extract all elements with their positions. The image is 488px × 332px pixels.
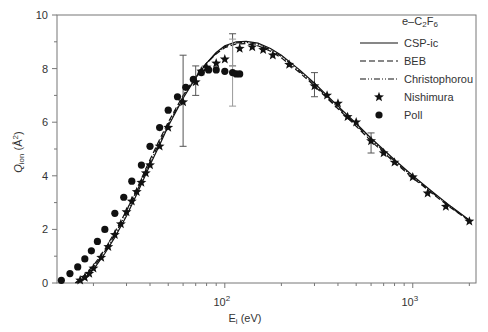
poll-circle-marker [198, 69, 205, 76]
nishimura-star-marker [441, 201, 451, 210]
poll-circle-marker [128, 178, 135, 185]
y-tick-label: 4 [42, 170, 48, 182]
legend-label: CSP-ic [404, 37, 439, 49]
y-tick-label: 10 [36, 9, 48, 21]
poll-circle-marker [101, 226, 108, 233]
poll-circle-marker [111, 210, 118, 217]
x-axis-ticks: 102103 [93, 283, 469, 308]
nishimura-star-marker [235, 43, 245, 52]
legend-items: CSP-icBEBChristophorouNishimuraPoll [360, 37, 473, 121]
poll-circle-marker [156, 124, 163, 131]
poll-circle-marker [94, 238, 101, 245]
poll-circle-marker [74, 263, 81, 270]
y-tick-label: 2 [42, 223, 48, 235]
legend-label: Nishimura [404, 91, 454, 103]
poll-circle-marker [213, 66, 220, 73]
poll-circle-marker [66, 270, 73, 277]
poll-circle-marker [182, 84, 189, 91]
legend-title: e–C2F6 [402, 15, 438, 29]
poll-circle-marker [165, 107, 172, 114]
poll-circle-marker [81, 255, 88, 262]
poll-circle-marker [58, 277, 65, 284]
error-bars [180, 34, 375, 153]
legend-label: BEB [404, 55, 426, 67]
y-tick-label: 0 [42, 277, 48, 289]
poll-circle-marker [236, 70, 243, 77]
poll-circle-marker [205, 66, 212, 73]
y-axis-ticks: 0246810 [36, 9, 57, 289]
y-axis-label: Qion (Å2) [11, 131, 26, 172]
nishimura-star-marker [351, 117, 361, 126]
nishimura-star-marker [163, 122, 173, 131]
x-axis-label: Ei (eV) [229, 312, 262, 326]
x-tick-label: 102 [213, 294, 230, 308]
poll-circle-marker [190, 76, 197, 83]
poll-circle-marker [138, 161, 145, 168]
poll-circle-marker [174, 93, 181, 100]
nishimura-star-marker [220, 54, 230, 63]
legend-label: Christophorou [404, 73, 473, 85]
x-tick-label: 103 [401, 294, 418, 308]
legend-label: Poll [404, 109, 422, 121]
y-tick-label: 8 [42, 63, 48, 75]
legend-circle-icon [375, 111, 382, 118]
poll-circle-marker [221, 68, 228, 75]
y-tick-label: 6 [42, 116, 48, 128]
nishimura-star-marker [211, 58, 221, 67]
chart-svg: 0246810 102103 Qion (Å2) Ei (eV) e–C2F6 … [0, 0, 488, 332]
nishimura-star-marker [423, 188, 433, 197]
poll-circle-marker [120, 194, 127, 201]
legend: e–C2F6 CSP-icBEBChristophorouNishimuraPo… [360, 15, 473, 121]
legend-star-icon [374, 92, 384, 101]
poll-circle-marker [88, 247, 95, 254]
poll-circle-marker [146, 143, 153, 150]
